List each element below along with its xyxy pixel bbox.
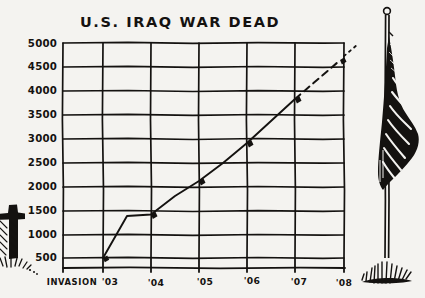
y-axis-tick-labels: 5000 4500 4000 3500 3000 2500 2000 1500 … xyxy=(28,38,57,263)
data-point-markers xyxy=(103,57,347,262)
y-tick-label: 2500 xyxy=(28,157,57,168)
cartoon-chart-canvas: U.S. IRAQ WAR DEAD 5000 4500 4000 3500 3… xyxy=(0,0,425,298)
data-point-2008-projected xyxy=(340,57,347,64)
page-title: U.S. IRAQ WAR DEAD xyxy=(80,14,280,30)
x-tick-label: '07 xyxy=(291,276,308,287)
y-tick-label: 3000 xyxy=(28,133,57,144)
plot-grid xyxy=(62,42,344,258)
y-tick-label: 1500 xyxy=(28,205,57,216)
y-tick-label: 5000 xyxy=(28,38,57,49)
y-tick-label: 2000 xyxy=(28,181,57,192)
x-tick-label: '06 xyxy=(244,275,261,286)
x-axis-tick-labels: INVASION '03 '04 '05 '06 '07 '08 xyxy=(47,275,353,288)
y-tick-label: 1000 xyxy=(28,229,57,240)
x-tick-label: '05 xyxy=(197,276,214,287)
x-tick-label: '03 xyxy=(102,276,119,287)
y-tick-label: 3500 xyxy=(28,109,57,120)
y-tick-label: 4000 xyxy=(28,85,57,96)
x-tick-label: '08 xyxy=(336,277,353,288)
x-tick-label: '04 xyxy=(148,277,165,288)
flag-at-half-mast-icon xyxy=(362,8,419,284)
x-tick-label-invasion: INVASION xyxy=(47,277,98,287)
y-tick-label: 500 xyxy=(35,252,57,263)
y-tick-label: 4500 xyxy=(28,61,57,72)
